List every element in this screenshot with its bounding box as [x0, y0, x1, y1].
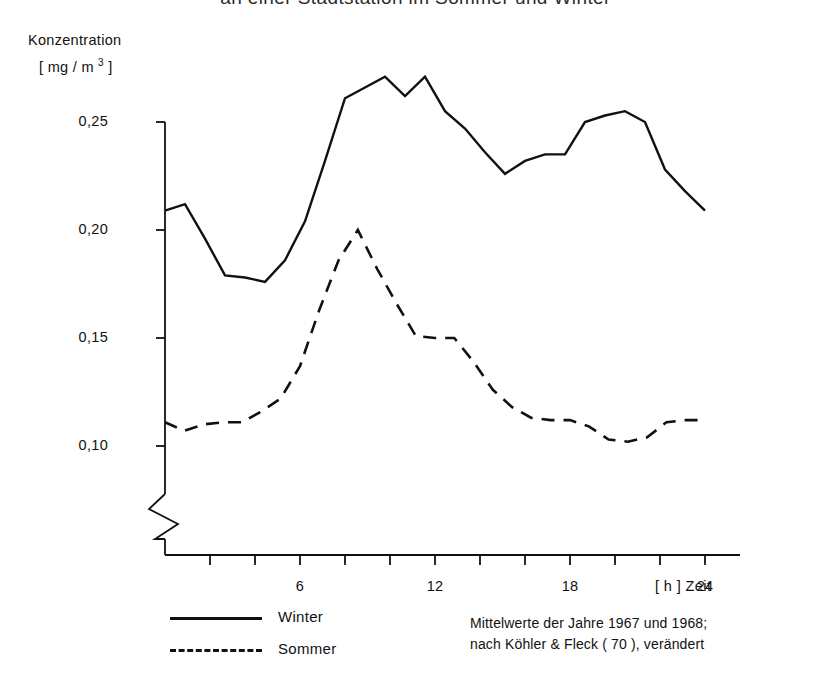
plot-canvas — [0, 0, 831, 679]
legend-label-winter: Winter — [278, 608, 323, 625]
series-line-winter — [165, 77, 705, 282]
y-tick-marks — [156, 122, 165, 446]
legend-key-sommer-line-icon — [170, 649, 262, 652]
legend-key-winter-line-icon — [170, 617, 262, 620]
figure-root: an einer Stadtstation im Sommer und Wint… — [0, 0, 831, 679]
series-line-sommer — [165, 230, 705, 442]
x-tick-marks — [210, 555, 705, 565]
y-axis-break-zigzag — [149, 494, 178, 539]
source-note-line1: Mittelwerte der Jahre 1967 und 1968; — [470, 613, 707, 634]
source-note-line2: nach Köhler & Fleck ( 70 ), verändert — [470, 634, 707, 655]
source-note: Mittelwerte der Jahre 1967 und 1968; nac… — [470, 613, 707, 655]
legend-label-sommer: Sommer — [278, 640, 336, 657]
